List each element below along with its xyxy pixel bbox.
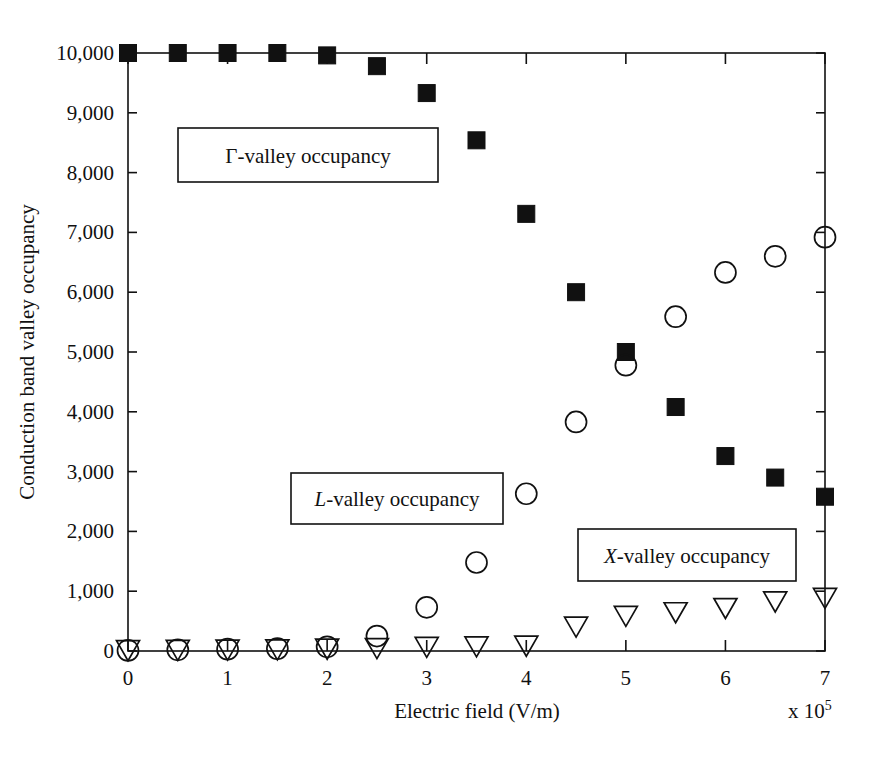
data-point-square [767,469,784,486]
legend-box-gamma-valley: Γ-valley occupancy [178,128,438,182]
data-point-square [319,47,336,64]
data-point-square [120,45,137,62]
y-tick-label: 10,000 [56,41,114,65]
data-point-circle [416,597,437,618]
data-point-square [617,344,634,361]
scatter-plot: 01,0002,0003,0004,0005,0006,0007,0008,00… [0,0,879,767]
x-axis-title-text: Electric field (V/m) [394,699,560,723]
x-multiplier-base: x 10 [788,699,825,723]
x-multiplier-exponent: 5 [825,698,832,713]
data-point-square [667,399,684,416]
x-tick-label: 7 [820,666,831,690]
data-point-triangle [465,637,488,657]
y-tick-label: 2,000 [67,519,114,543]
legend-label-x-valley-symbol: X [603,544,618,568]
data-point-circle [516,483,537,504]
data-point-circle [566,411,587,432]
y-tick-label: 4,000 [67,400,114,424]
y-axis-title: Conduction band valley occupancy [15,204,39,500]
legend-label-l-valley-symbol: L [313,487,326,511]
data-point-circle [366,626,387,647]
figure-canvas: 01,0002,0003,0004,0005,0006,0007,0008,00… [0,0,879,767]
series-gamma-valley [120,45,834,506]
y-tick-label: 7,000 [67,220,114,244]
data-point-square [219,45,236,62]
x-axis-title: Electric field (V/m) [394,699,560,723]
data-point-triangle [614,606,637,626]
x-tick-label: 2 [322,666,333,690]
y-tick-label: 9,000 [67,101,114,125]
x-tick-label: 1 [222,666,233,690]
data-point-circle [466,552,487,573]
legend-label-gamma-valley: Γ-valley occupancy [225,144,391,168]
x-tick-label: 5 [621,666,632,690]
data-point-circle [765,246,786,267]
y-tick-label: 5,000 [67,340,114,364]
data-point-square [269,45,286,62]
legend-label-x-valley-rest: -valley occupancy [617,544,771,568]
data-point-triangle [714,599,737,619]
x-tick-label: 3 [421,666,432,690]
y-tick-label: 8,000 [67,161,114,185]
x-tick-label: 0 [123,666,134,690]
x-axis-multiplier: x 105 [788,698,832,723]
legend-label-l-valley-rest: -valley occupancy [326,487,480,511]
data-point-square [368,58,385,75]
series-gamma-path [128,53,825,497]
y-tick-label: 0 [104,639,115,663]
x-tick-label: 6 [720,666,731,690]
svg-text:L-valley occupancy: L-valley occupancy [313,487,480,511]
data-point-square [518,205,535,222]
legend-box-l-valley: L-valley occupancy [291,473,503,524]
data-point-square [568,284,585,301]
svg-text:X-valley occupancy: X-valley occupancy [603,544,771,568]
y-tick-label: 3,000 [67,460,114,484]
data-point-triangle [565,617,588,637]
series-l-valley [118,227,836,661]
series-x-valley [117,588,837,660]
y-tick-label: 6,000 [67,280,114,304]
data-point-circle [167,639,188,660]
data-point-triangle [764,592,787,612]
x-tick-label: 4 [521,666,532,690]
svg-text:x 105: x 105 [788,698,832,723]
data-point-triangle [664,603,687,623]
data-point-circle [715,262,736,283]
data-point-square [468,132,485,149]
data-point-square [717,448,734,465]
y-axis-title-text: Conduction band valley occupancy [15,204,39,500]
legend-box-x-valley: X-valley occupancy [578,529,796,581]
data-point-square [169,45,186,62]
data-point-circle [665,306,686,327]
y-tick-label: 1,000 [67,579,114,603]
data-point-square [418,85,435,102]
data-point-square [817,488,834,505]
